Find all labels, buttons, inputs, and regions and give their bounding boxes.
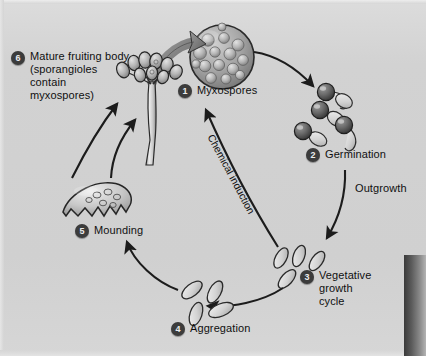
stage-label-3-line3: cycle [319, 295, 345, 307]
stage-label-6-line4: myxospores) [30, 89, 94, 101]
stage-badge-4: 4 [171, 322, 185, 336]
stage-label-2: Germination [325, 148, 386, 160]
mound-amoeba-icon [63, 183, 131, 216]
stage-label-3-line1: Vegetative [319, 269, 371, 281]
arrow-aggregation-to-mounding [127, 242, 178, 290]
germinating-spores-icon [294, 83, 355, 150]
page-gutter-shadow [404, 255, 426, 356]
arrow-myxospores-to-germination [254, 52, 313, 86]
fruiting-body-icon [114, 51, 185, 165]
arrow-label6-pointer [72, 104, 117, 178]
stage-badge-2: 2 [306, 148, 320, 162]
arrow-outgrowth [327, 170, 345, 238]
stage-badge-1: 1 [178, 84, 192, 98]
stage-label-4: Aggregation [190, 322, 250, 334]
stage-label-5: Mounding [94, 224, 143, 236]
transition-label-outgrowth: Outgrowth [355, 182, 407, 194]
life-cycle-figure: 6 Mature fruiting body (sporangioles con… [0, 0, 426, 356]
arrow-mounding-to-fruiting-body [111, 120, 135, 178]
myxospore-sphere-icon [190, 23, 254, 89]
arrow-chemical-induction [206, 110, 278, 247]
stage-label-1: Myxospores [197, 84, 257, 96]
stage-label-3-line2: growth [319, 282, 353, 294]
stage-label-6-line1: Mature fruiting body [30, 50, 129, 62]
stage-label-6-line3: contain [30, 76, 66, 88]
stage-badge-5: 5 [75, 224, 89, 238]
stage-badge-3: 3 [300, 270, 314, 284]
aggregating-cells-icon [179, 278, 236, 327]
stage-badge-6: 6 [11, 51, 25, 65]
stage-label-6-line2: (sporangioles [30, 63, 97, 75]
